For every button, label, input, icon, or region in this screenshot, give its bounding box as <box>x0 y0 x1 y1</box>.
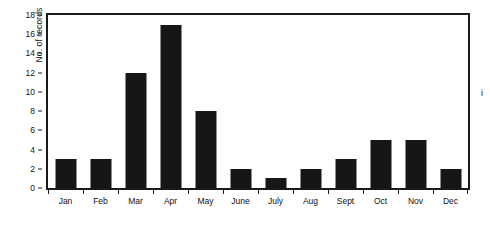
x-axis-tick-label: Nov <box>408 196 423 206</box>
bar-slot <box>118 15 153 188</box>
bar <box>160 25 181 188</box>
y-axis-tick-mark <box>38 168 42 169</box>
x-axis-tick-mark <box>258 190 259 194</box>
x-axis-tick-mark <box>83 190 84 194</box>
x-axis-tick-label: July <box>268 196 283 206</box>
bar-slot <box>258 15 293 188</box>
y-axis-tick-mark <box>38 130 42 131</box>
bar-slot <box>328 15 363 188</box>
y-axis-tick-mark <box>38 15 42 16</box>
y-axis-tick-mark <box>38 188 42 189</box>
x-axis-tick-label: May <box>197 196 213 206</box>
x-axis-tick-label: June <box>231 196 249 206</box>
y-axis-tick-label: 4 <box>30 145 35 155</box>
bar <box>125 73 146 188</box>
y-axis-tick-label: 14 <box>26 48 35 58</box>
bar <box>335 159 356 188</box>
x-axis-tick-label: Feb <box>93 196 108 206</box>
x-axis-tick-mark <box>293 190 294 194</box>
y-axis-tick-mark <box>38 149 42 150</box>
y-axis-tick-label: 12 <box>26 68 35 78</box>
y-axis-tick-labels: 024681012141618 <box>0 13 42 190</box>
y-axis-tick-label: 16 <box>26 29 35 39</box>
y-axis-tick-mark <box>38 34 42 35</box>
bar-series <box>48 15 468 188</box>
bar-slot <box>293 15 328 188</box>
y-axis-tick-mark <box>38 72 42 73</box>
bar-slot <box>398 15 433 188</box>
bar-slot <box>83 15 118 188</box>
y-axis-tick-label: 2 <box>30 164 35 174</box>
bar <box>55 159 76 188</box>
bar <box>300 169 321 188</box>
x-axis-tick-mark <box>118 190 119 194</box>
x-axis-tick-label: Mar <box>128 196 143 206</box>
bar <box>370 140 391 188</box>
x-axis-tick-mark <box>398 190 399 194</box>
y-axis-tick-mark <box>38 111 42 112</box>
x-axis-tick-mark <box>467 190 468 194</box>
x-axis-tick-label: Aug <box>303 196 318 206</box>
chart-screenshot: No. of records 024681012141618 JanFebMar… <box>0 0 490 226</box>
bar-slot <box>363 15 398 188</box>
x-axis-tick-mark <box>433 190 434 194</box>
bar <box>230 169 251 188</box>
y-axis-tick-label: 0 <box>30 183 35 193</box>
bar <box>440 169 461 188</box>
x-axis-tick-mark <box>223 190 224 194</box>
bar-slot <box>153 15 188 188</box>
y-axis-tick-mark <box>38 53 42 54</box>
x-axis-tick-labels: JanFebMarAprMayJuneJulyAugSeptOctNovDec <box>48 196 468 212</box>
bar-slot <box>433 15 468 188</box>
x-axis-tick-marks <box>48 190 468 195</box>
y-axis-tick-label: 8 <box>30 106 35 116</box>
x-axis-tick-mark <box>328 190 329 194</box>
x-axis-tick-label: Oct <box>374 196 387 206</box>
x-axis-tick-label: Sept <box>337 196 355 206</box>
bar-slot <box>48 15 83 188</box>
bar <box>265 178 286 188</box>
x-axis-tick-mark <box>153 190 154 194</box>
x-axis-tick-label: Dec <box>443 196 458 206</box>
bar <box>90 159 111 188</box>
x-axis-tick-label: Apr <box>164 196 177 206</box>
x-axis-tick-mark <box>363 190 364 194</box>
y-axis-tick-mark <box>38 91 42 92</box>
y-axis-tick-label: 18 <box>26 10 35 20</box>
y-axis-tick-label: 10 <box>26 87 35 97</box>
bar <box>405 140 426 188</box>
clipped-text-fragment: i <box>481 89 490 101</box>
bar-slot <box>188 15 223 188</box>
bar-slot <box>223 15 258 188</box>
x-axis-tick-mark <box>188 190 189 194</box>
bar <box>195 111 216 188</box>
x-axis-tick-mark <box>48 190 49 194</box>
x-axis-tick-label: Jan <box>59 196 73 206</box>
y-axis-tick-label: 6 <box>30 125 35 135</box>
